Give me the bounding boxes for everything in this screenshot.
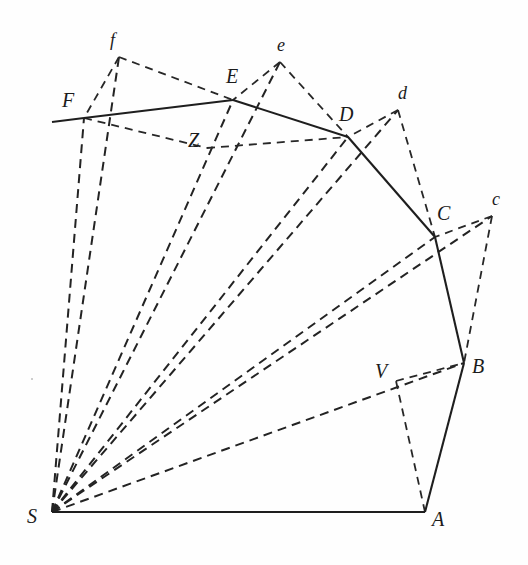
vertex-label-V: V (375, 361, 387, 381)
ray-S-to-D (52, 137, 348, 512)
vertex-label-c: c (492, 190, 500, 208)
chord-d-to-D (348, 110, 398, 137)
figure-canvas (0, 0, 528, 565)
projection-rays-group (52, 57, 492, 512)
edge-F-left-extension (52, 118, 84, 122)
dashed-chords-group (84, 57, 492, 512)
chord-A-to-V (396, 381, 425, 512)
chord-Z-to-D (207, 137, 348, 148)
ray-S-to-B (52, 363, 464, 512)
edge-E-F (84, 100, 233, 118)
vertex-label-B: B (472, 356, 484, 376)
ray-S-to-c (52, 216, 492, 512)
polygon-edges-group (52, 100, 464, 512)
vertex-label-d: d (398, 84, 407, 102)
vertex-label-S: S (27, 506, 37, 526)
vertex-label-D: D (339, 104, 353, 124)
geometric-figure: SABCDEFVZcdef (0, 0, 528, 565)
chord-e-to-E (233, 62, 280, 100)
chord-d-to-C (398, 110, 435, 237)
vertex-label-A: A (432, 509, 444, 529)
edge-B-C (435, 237, 464, 363)
vertex-label-F: F (62, 90, 74, 110)
vertex-label-f: f (110, 31, 115, 49)
ray-S-to-e (52, 62, 280, 512)
edge-C-D (348, 137, 435, 237)
chord-V-to-B (396, 363, 464, 381)
vertex-label-C: C (437, 203, 450, 223)
vertex-label-Z: Z (188, 130, 199, 150)
chord-f-to-E (119, 57, 233, 100)
paper-speck (31, 378, 33, 380)
vertex-label-E: E (226, 66, 238, 86)
vertex-label-e: e (277, 36, 285, 54)
ray-S-to-F (52, 118, 84, 512)
edge-A-B (425, 363, 464, 512)
chord-c-to-B (464, 216, 492, 363)
